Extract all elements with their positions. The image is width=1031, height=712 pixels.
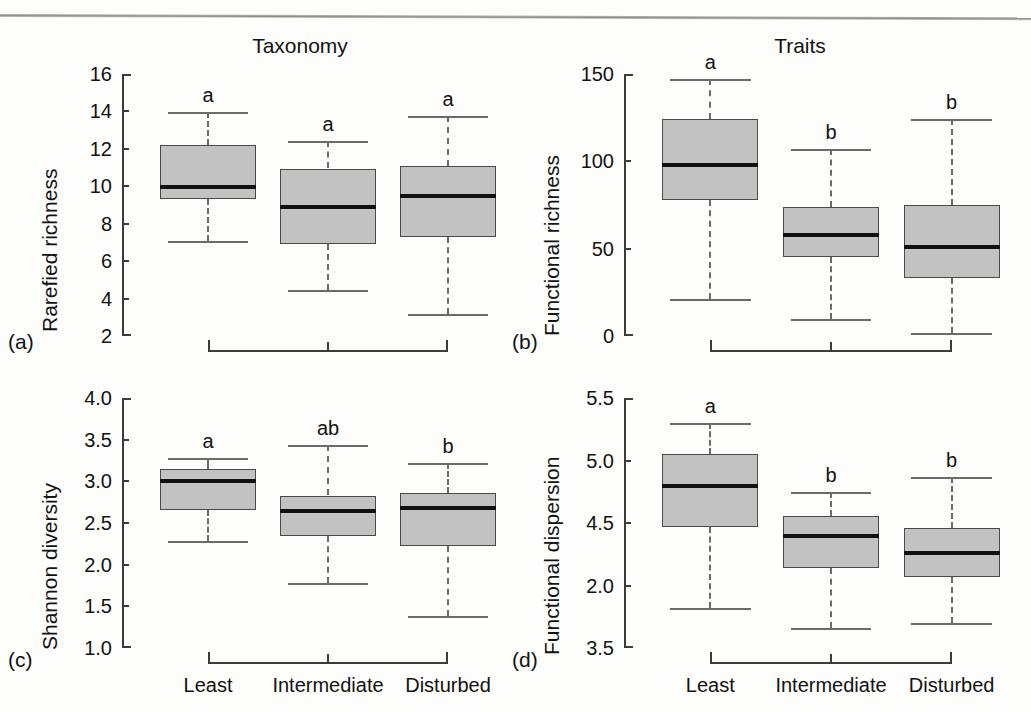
y-tick-label-a-7: 2	[46, 325, 112, 348]
whisker-cap-upper-c-0	[168, 458, 249, 460]
y-tick-label-a-4: 8	[46, 212, 112, 235]
whisker-lower-a-0	[207, 199, 209, 240]
y-tick-label-c-3: 2.5	[46, 512, 112, 535]
median-line-b-2	[904, 245, 1000, 249]
x-tick-label-c-2: Disturbed	[405, 674, 491, 697]
x-axis-cap-right-b	[950, 340, 952, 350]
panel-letter-a: (a)	[8, 330, 34, 354]
box-a-0	[160, 145, 256, 199]
y-tick-label-d-0: 5.5	[548, 387, 614, 410]
x-axis-cap-left-a	[208, 340, 210, 350]
whisker-upper-b-2	[951, 119, 953, 205]
whisker-cap-upper-a-2	[408, 116, 489, 118]
whisker-lower-d-0	[709, 527, 711, 608]
x-axis-cap-right-a	[446, 340, 448, 350]
y-tick-a-1	[122, 110, 129, 112]
x-axis-tick-mid-b	[830, 342, 832, 350]
whisker-cap-lower-c-2	[408, 616, 489, 618]
x-axis-line-c	[208, 662, 448, 664]
median-line-a-2	[400, 194, 496, 198]
y-axis-cap-top-d	[624, 398, 633, 400]
box-c-2	[400, 493, 496, 546]
y-tick-label-a-5: 6	[46, 250, 112, 273]
y-tick-b-1	[624, 160, 631, 162]
x-axis-cap-right-c	[446, 652, 448, 662]
median-line-c-2	[400, 506, 496, 510]
significance-letter-a-1: a	[322, 113, 333, 136]
y-tick-a-4	[122, 223, 129, 225]
whisker-cap-upper-c-2	[408, 463, 489, 465]
boxplot-figure: Taxonomy(a)Rarefied richness161412108642…	[0, 0, 1031, 712]
box-c-0	[160, 469, 256, 510]
whisker-cap-upper-c-1	[288, 445, 369, 447]
whisker-upper-a-2	[447, 116, 449, 166]
whisker-cap-upper-d-0	[670, 423, 751, 425]
whisker-lower-c-0	[207, 510, 209, 542]
box-c-1	[280, 496, 376, 536]
y-tick-c-2	[122, 480, 129, 482]
y-axis-cap-top-c	[122, 398, 131, 400]
box-d-0	[662, 454, 758, 527]
y-tick-label-b-0: 150	[548, 63, 614, 86]
x-tick-label-d-0: Least	[686, 674, 735, 697]
y-tick-c-1	[122, 439, 129, 441]
box-d-1	[783, 516, 879, 569]
significance-letter-a-2: a	[442, 88, 453, 111]
whisker-lower-d-2	[951, 577, 953, 623]
panel-letter-d: (d)	[512, 648, 538, 672]
whisker-lower-b-2	[951, 278, 953, 332]
whisker-upper-b-0	[709, 79, 711, 119]
median-line-c-0	[160, 479, 256, 483]
y-tick-label-d-2: 4.5	[548, 512, 614, 535]
panel-title-a: Taxonomy	[150, 34, 450, 58]
y-tick-label-c-4: 2.0	[46, 553, 112, 576]
whisker-upper-a-1	[327, 141, 329, 168]
whisker-cap-lower-b-2	[911, 333, 992, 335]
median-line-d-1	[783, 534, 879, 538]
whisker-cap-upper-d-2	[911, 477, 992, 479]
box-a-2	[400, 166, 496, 237]
median-line-a-1	[280, 205, 376, 209]
box-b-0	[662, 119, 758, 199]
y-axis-label-d: Functional dispersion	[540, 457, 564, 655]
y-tick-label-a-6: 4	[46, 287, 112, 310]
whisker-cap-lower-a-0	[168, 241, 249, 243]
panel-letter-b: (b)	[512, 330, 538, 354]
whisker-cap-upper-a-0	[168, 112, 249, 114]
x-axis-cap-left-d	[710, 652, 712, 662]
y-tick-label-c-0: 4.0	[46, 387, 112, 410]
whisker-cap-upper-a-1	[288, 141, 369, 143]
y-tick-label-d-4: 3.5	[548, 637, 614, 660]
x-tick-label-d-2: Disturbed	[909, 674, 995, 697]
x-axis-line-d	[710, 662, 951, 664]
y-tick-label-b-3: 0	[548, 325, 614, 348]
whisker-lower-c-1	[327, 536, 329, 584]
panel-title-b: Traits	[650, 34, 950, 58]
whisker-cap-upper-d-1	[791, 492, 872, 494]
whisker-cap-lower-d-0	[670, 608, 751, 610]
y-tick-d-3	[624, 585, 631, 587]
whisker-upper-a-0	[207, 112, 209, 145]
whisker-upper-b-1	[830, 149, 832, 207]
whisker-lower-a-1	[327, 244, 329, 290]
x-axis-tick-mid-d	[830, 654, 832, 662]
x-axis-cap-left-b	[710, 340, 712, 350]
whisker-upper-d-1	[830, 492, 832, 516]
median-line-d-0	[662, 484, 758, 488]
whisker-cap-lower-c-1	[288, 583, 369, 585]
x-axis-tick-mid-c	[327, 654, 329, 662]
y-tick-d-1	[624, 460, 631, 462]
x-axis-cap-right-d	[950, 652, 952, 662]
significance-letter-c-1: ab	[317, 417, 339, 440]
y-tick-c-4	[122, 564, 129, 566]
y-axis-cap-top-a	[122, 74, 131, 76]
x-tick-label-c-1: Intermediate	[272, 674, 383, 697]
significance-letter-a-0: a	[202, 84, 213, 107]
significance-letter-b-2: b	[946, 91, 957, 114]
y-tick-a-2	[122, 148, 129, 150]
y-tick-label-d-3: 2.0	[548, 574, 614, 597]
y-axis-cap-bottom-d	[624, 646, 633, 648]
y-tick-d-2	[624, 522, 631, 524]
y-tick-b-2	[624, 248, 631, 250]
median-line-b-1	[783, 233, 879, 237]
